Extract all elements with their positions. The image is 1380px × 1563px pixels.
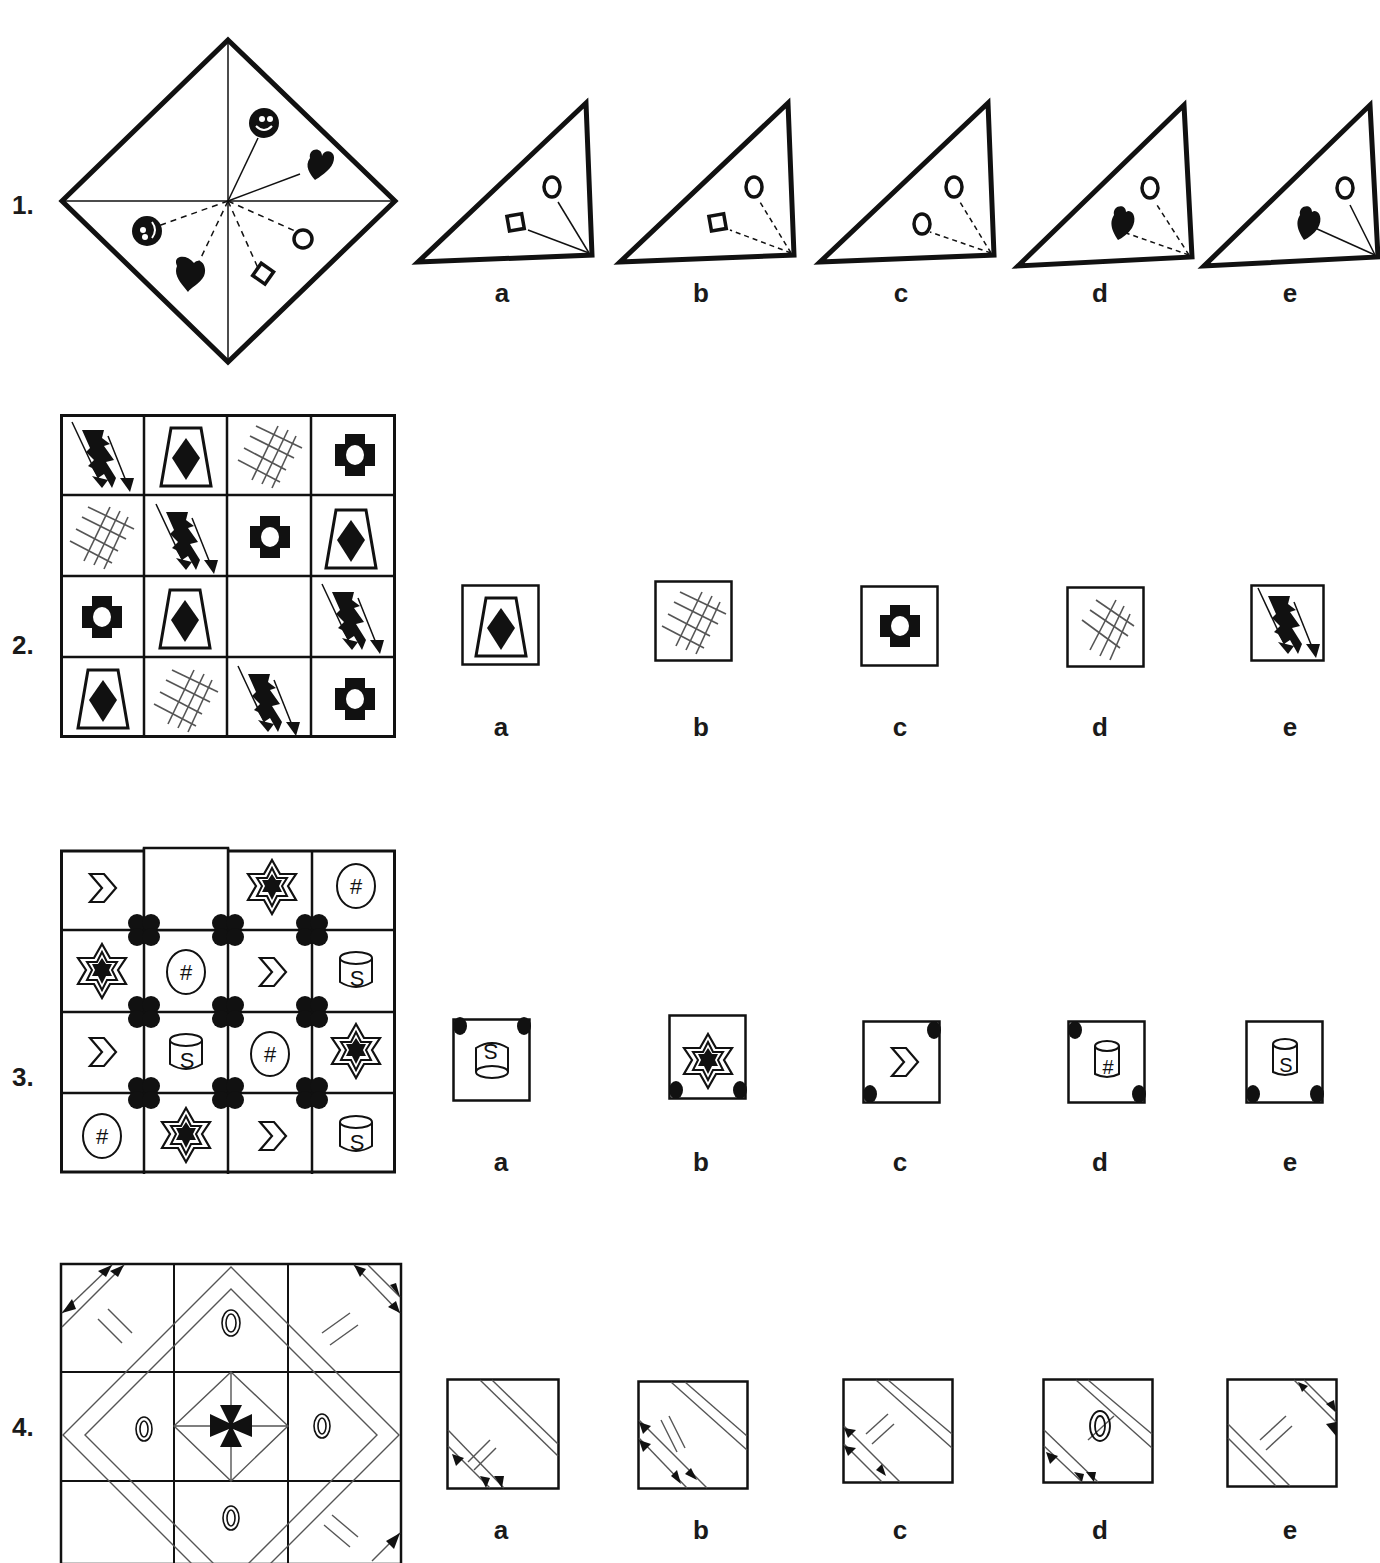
smiley-icon xyxy=(132,216,162,246)
hash-oval-icon xyxy=(83,1114,121,1158)
svg-text:S: S xyxy=(1279,1054,1292,1076)
trapezoid-diamond-icon xyxy=(160,590,210,648)
hash-oval-icon xyxy=(337,864,375,908)
q4-option-e-label: e xyxy=(1270,1515,1310,1546)
q2-option-e[interactable] xyxy=(1250,584,1326,662)
q2-option-b-label: b xyxy=(681,712,721,743)
q2-option-d[interactable] xyxy=(1066,586,1146,668)
q2-stem-grid xyxy=(60,414,396,738)
q1-option-e[interactable] xyxy=(1200,100,1380,270)
q2-option-e-label: e xyxy=(1270,712,1310,743)
hash-oval-icon xyxy=(167,950,205,994)
q2-option-a[interactable] xyxy=(461,584,541,666)
q3-option-c[interactable] xyxy=(862,1020,942,1104)
q1-stem-folded-square xyxy=(60,38,400,364)
smiley-icon xyxy=(249,108,279,138)
q4-stem-grid xyxy=(60,1263,402,1563)
q3-option-b-label: b xyxy=(681,1147,721,1178)
q4-option-c[interactable] xyxy=(842,1378,954,1484)
q4-option-e[interactable] xyxy=(1226,1378,1338,1488)
q1-option-c-label: c xyxy=(881,278,921,309)
q1-option-b-label: b xyxy=(681,278,721,309)
svg-text:#: # xyxy=(1102,1056,1114,1078)
hash-oval-icon xyxy=(251,1032,289,1076)
q4-option-a[interactable] xyxy=(446,1378,560,1490)
cylinder-s-icon xyxy=(340,1116,372,1155)
q3-stem-grid xyxy=(60,848,396,1174)
q3-option-c-label: c xyxy=(880,1147,920,1178)
q2-option-a-label: a xyxy=(481,712,521,743)
q1-option-d-label: d xyxy=(1080,278,1120,309)
q4-option-a-label: a xyxy=(481,1515,521,1546)
cylinder-s-icon xyxy=(340,952,372,991)
q2-option-c[interactable] xyxy=(860,585,940,667)
trapezoid-diamond-icon xyxy=(78,670,128,728)
q1-option-a[interactable] xyxy=(414,100,594,265)
q3-option-d-label: d xyxy=(1080,1147,1120,1178)
q4-option-c-label: c xyxy=(880,1515,920,1546)
q3-option-e[interactable]: S xyxy=(1245,1020,1325,1104)
q3-option-d[interactable]: # xyxy=(1067,1020,1147,1104)
question-number-2: 2. xyxy=(12,630,34,661)
question-number-4: 4. xyxy=(12,1412,34,1443)
q2-option-b[interactable] xyxy=(654,580,734,662)
q1-option-e-label: e xyxy=(1270,278,1310,309)
q4-option-b[interactable] xyxy=(637,1380,749,1490)
q1-option-a-label: a xyxy=(482,278,522,309)
q1-option-b[interactable] xyxy=(616,100,796,265)
q4-option-b-label: b xyxy=(681,1515,721,1546)
q1-option-d[interactable] xyxy=(1014,100,1194,270)
question-number-1: 1. xyxy=(12,190,34,221)
q4-option-d-label: d xyxy=(1080,1515,1120,1546)
q3-option-a[interactable] xyxy=(452,1018,532,1102)
trapezoid-diamond-icon xyxy=(326,510,376,568)
q4-option-d[interactable] xyxy=(1042,1378,1154,1484)
q3-option-a-label: a xyxy=(481,1147,521,1178)
q2-option-d-label: d xyxy=(1080,712,1120,743)
question-number-3: 3. xyxy=(12,1062,34,1093)
q1-option-c[interactable] xyxy=(816,100,996,265)
q3-option-e-label: e xyxy=(1270,1147,1310,1178)
q2-option-c-label: c xyxy=(880,712,920,743)
cylinder-s-icon xyxy=(170,1034,202,1073)
trapezoid-diamond-icon xyxy=(161,428,211,486)
q3-option-b[interactable] xyxy=(668,1014,748,1100)
